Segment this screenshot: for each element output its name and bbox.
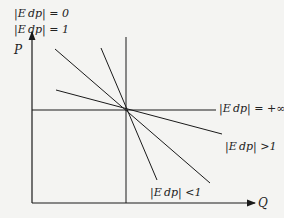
label-greater: |E dp| >1 (225, 140, 276, 153)
label-infinite: |E dp| = +∞ (219, 102, 284, 115)
label-p-axis: P (14, 43, 22, 57)
label-q-axis: Q (258, 196, 268, 210)
label-one: |E dp| = 1 (14, 23, 69, 36)
label-zero: |E dp| = 0 (14, 7, 69, 20)
inelastic-lt1-line (101, 48, 157, 180)
label-less: |E dp| <1 (150, 186, 201, 199)
elastic-gt1-line (56, 90, 222, 134)
unit-elastic-line (55, 49, 210, 183)
